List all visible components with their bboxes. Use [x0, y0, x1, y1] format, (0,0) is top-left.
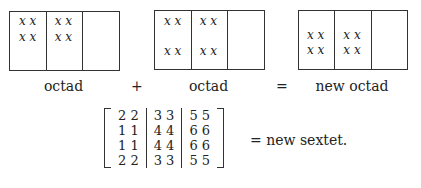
- box2-column-2: x x x x: [192, 11, 229, 69]
- octad-label-2: octad: [154, 78, 263, 94]
- matrix-cell: 6 6: [189, 123, 210, 138]
- matrix-cell: 2 2: [118, 153, 139, 168]
- x-marks: x x: [307, 43, 324, 57]
- matrix-column-2: 3 3 4 4 4 4 3 3: [146, 108, 182, 168]
- box2-column-3: [228, 11, 264, 69]
- box3-column-2: x x x x: [335, 11, 371, 69]
- matrix-cell: 1 1: [118, 123, 139, 138]
- x-marks: x x: [200, 44, 217, 58]
- matrix-cell: 1 1: [118, 138, 139, 153]
- x-marks: x x: [343, 28, 360, 42]
- x-marks: x x: [55, 14, 72, 28]
- matrix-column-1: 2 2 1 1 1 1 2 2: [111, 108, 146, 168]
- matrix-cell: 4 4: [154, 123, 175, 138]
- x-marks: x x: [19, 30, 36, 44]
- matrix-cell: 6 6: [189, 138, 210, 153]
- x-marks: x x: [164, 14, 181, 28]
- matrix-cell: 5 5: [189, 108, 210, 123]
- octad-box-2: x x x x x x x x: [154, 10, 265, 70]
- sextet-matrix: 2 2 1 1 1 1 2 2 3 3 4 4 4 4 3 3 5 5 6 6 …: [104, 108, 224, 168]
- box1-column-1: x x x x: [10, 12, 47, 70]
- x-marks: x x: [343, 43, 360, 57]
- x-marks: x x: [55, 30, 72, 44]
- x-marks: x x: [307, 28, 324, 42]
- right-bracket: [217, 108, 224, 168]
- x-marks: x x: [19, 14, 36, 28]
- matrix-column-3: 5 5 6 6 6 6 5 5: [181, 108, 217, 168]
- octad-box-1: x x x x x x x x: [9, 11, 120, 71]
- matrix-cell: 5 5: [189, 153, 210, 168]
- matrix-cell: 4 4: [154, 138, 175, 153]
- new-octad-label: new octad: [298, 78, 406, 94]
- box2-column-1: x x x x: [155, 11, 192, 69]
- equals-sign: =: [276, 78, 288, 94]
- new-sextet-caption: = new sextet.: [250, 132, 347, 148]
- x-marks: x x: [200, 14, 217, 28]
- left-bracket: [104, 108, 111, 168]
- matrix-cell: 3 3: [154, 153, 175, 168]
- plus-sign: +: [131, 78, 143, 94]
- x-marks: x x: [164, 44, 181, 58]
- box1-column-3: [83, 12, 119, 70]
- matrix-cell: 3 3: [154, 108, 175, 123]
- box1-column-2: x x x x: [47, 12, 84, 70]
- box3-column-1: x x x x: [299, 11, 335, 69]
- box3-column-3: [372, 11, 407, 69]
- matrix-cell: 2 2: [118, 108, 139, 123]
- octad-label-1: octad: [9, 78, 118, 94]
- octad-box-3: x x x x x x x x: [298, 10, 408, 70]
